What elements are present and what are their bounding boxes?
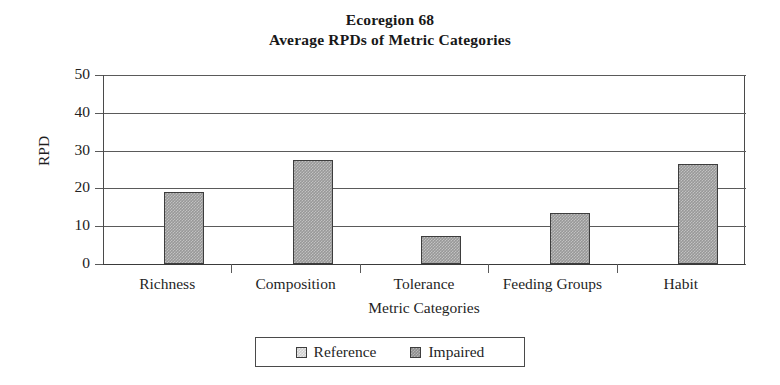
gridline xyxy=(104,75,746,76)
legend-swatch-reference-icon xyxy=(296,347,307,358)
bar xyxy=(293,160,333,264)
x-axis-tick-mark xyxy=(617,264,618,273)
x-axis-category-label: Composition xyxy=(231,275,359,293)
x-axis-title: Metric Categories xyxy=(103,299,745,317)
gridline xyxy=(104,113,746,114)
y-axis-tick-mark xyxy=(95,226,103,227)
y-axis-tick-label: 0 xyxy=(48,254,90,272)
chart-title-block: Ecoregion 68 Average RPDs of Metric Cate… xyxy=(0,10,780,50)
x-axis-category-label: Tolerance xyxy=(360,275,488,293)
gridline xyxy=(104,151,746,152)
gridline xyxy=(104,188,746,189)
legend-entry-impaired[interactable]: Impaired xyxy=(410,343,484,361)
x-axis-tick-mark xyxy=(231,264,232,273)
legend-label-impaired: Impaired xyxy=(428,343,484,361)
x-axis-category-label: Habit xyxy=(617,275,745,293)
bar xyxy=(678,164,718,264)
y-axis-tick-label: 50 xyxy=(48,65,90,83)
chart-legend: Reference Impaired xyxy=(255,337,525,367)
y-axis-tick-mark xyxy=(95,188,103,189)
bar xyxy=(164,192,204,264)
y-axis-tick-label: 40 xyxy=(48,103,90,121)
y-axis-tick-label: 10 xyxy=(48,216,90,234)
legend-entry-reference[interactable]: Reference xyxy=(296,343,377,361)
chart-title: Ecoregion 68 xyxy=(0,10,780,30)
x-axis-category-label: Richness xyxy=(103,275,231,293)
chart-subtitle: Average RPDs of Metric Categories xyxy=(0,30,780,50)
x-axis-line xyxy=(103,264,745,265)
y-axis-tick-mark xyxy=(95,75,103,76)
x-axis-tick-mark xyxy=(488,264,489,273)
x-axis-category-label: Feeding Groups xyxy=(488,275,616,293)
y-axis-tick-mark xyxy=(95,264,103,265)
y-axis-tick-mark xyxy=(95,113,103,114)
plot-area xyxy=(103,75,745,264)
legend-swatch-impaired-icon xyxy=(410,347,421,358)
y-axis-tick-mark xyxy=(95,151,103,152)
bar xyxy=(421,236,461,264)
y-axis-tick-label: 20 xyxy=(48,178,90,196)
bar xyxy=(550,213,590,264)
x-axis-tick-mark xyxy=(360,264,361,273)
chart-figure: Ecoregion 68 Average RPDs of Metric Cate… xyxy=(0,0,780,385)
y-axis-tick-label: 30 xyxy=(48,141,90,159)
legend-label-reference: Reference xyxy=(314,343,377,361)
